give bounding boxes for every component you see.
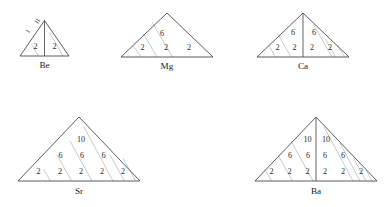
shell-count: 2 (305, 167, 309, 176)
shell-count: 2 (292, 43, 296, 52)
diagram-mg: 6 2 2 2 Mg (121, 13, 213, 71)
shell-count: 10 (322, 135, 330, 144)
shell-count: 6 (312, 28, 316, 37)
shell-count: 6 (288, 151, 292, 160)
be-edge-label-2: II (33, 17, 41, 25)
shell-count: 6 (323, 151, 327, 160)
shell-count: 2 (33, 42, 37, 51)
shell-count: 6 (291, 28, 295, 37)
shell-count: 2 (275, 43, 279, 52)
element-label-be: Be (39, 60, 49, 70)
shell-count: 6 (80, 151, 84, 160)
element-label-ca: Ca (298, 61, 308, 71)
shell-count: 2 (79, 167, 83, 176)
shell-count: 2 (58, 167, 62, 176)
diagram-ba: 10 10 6 6 6 6 2 2 2 2 2 2 Ba (255, 117, 377, 196)
element-label-sr: Sr (75, 186, 83, 196)
be-edge-label-1: 1 (24, 28, 32, 35)
shell-count: 6 (58, 151, 62, 160)
shell-count: 2 (52, 42, 56, 51)
shell-count: 10 (77, 135, 85, 144)
shell-count: 2 (323, 167, 327, 176)
shell-count: 2 (187, 43, 191, 52)
shell-count: 10 (303, 135, 311, 144)
hatch-line (144, 34, 158, 57)
diagram-be: 2 2 1 II Be (20, 17, 69, 70)
hatch-line (291, 141, 313, 181)
ca-hatch-group (269, 25, 345, 58)
shell-count: 2 (36, 167, 40, 176)
figure-root: 2 2 1 II Be 6 2 2 2 Mg (0, 0, 384, 207)
diagram-sr: 10 6 6 6 2 2 2 2 2 Sr (18, 117, 140, 196)
shell-count: 2 (328, 43, 332, 52)
shell-count: 2 (287, 167, 291, 176)
shell-count: 2 (341, 167, 345, 176)
shell-count: 2 (121, 167, 125, 176)
shell-count: 2 (140, 43, 144, 52)
hatch-line (44, 169, 51, 181)
element-label-mg: Mg (161, 61, 174, 71)
shell-count: 6 (306, 151, 310, 160)
shell-count: 6 (101, 151, 105, 160)
shell-count: 2 (164, 43, 168, 52)
shell-count: 6 (160, 29, 164, 38)
shell-count: 2 (359, 167, 363, 176)
diagram-ca: 6 6 2 2 2 2 Ca (257, 13, 349, 71)
shell-count: 2 (269, 167, 273, 176)
hatch-line (84, 127, 113, 181)
hatch-line (152, 22, 173, 57)
electron-shell-triangles-figure: 2 2 1 II Be 6 2 2 2 Mg (0, 0, 384, 207)
hatch-line (366, 170, 372, 181)
shell-count: 2 (310, 43, 314, 52)
element-label-ba: Ba (311, 186, 321, 196)
shell-count: 6 (341, 151, 345, 160)
shell-count: 2 (100, 167, 104, 176)
